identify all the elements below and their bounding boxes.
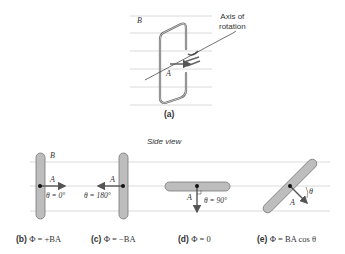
panel-d-caption: (d) Φ = 0 (178, 234, 211, 244)
side-view-label: Side view (147, 137, 181, 146)
panel-b-caption: (b) Φ = +BA (16, 234, 61, 244)
axis-of-rotation-line (145, 33, 233, 80)
panel-a-field-label: B (137, 16, 142, 25)
panel-a-loop (160, 24, 186, 104)
field-label-b: B (50, 151, 55, 160)
panel-b-area-label: A (50, 175, 55, 184)
panel-d-equation: Φ = 0 (191, 234, 211, 244)
panel-d-letter: (d) (178, 234, 189, 244)
panel-d-area-label: A (187, 193, 192, 202)
panel-e-equation: Φ = BA cos θ (270, 234, 316, 244)
panel-c-letter: (c) (91, 234, 101, 244)
panel-d-angle-label: θ = 90° (204, 196, 227, 205)
panel-a-caption: (a) (164, 109, 174, 119)
panel-e-letter: (e) (257, 234, 267, 244)
panel-e-caption: (e) Φ = BA cos θ (257, 234, 316, 244)
axis-of-rotation-label: Axis of rotation (219, 12, 246, 32)
diagram-graphics (0, 0, 345, 254)
panel-b-angle-label: θ = 0° (46, 191, 65, 200)
panel-b-letter: (b) (16, 234, 27, 244)
panel-c-angle-label: θ = 180° (84, 191, 111, 200)
panel-a-area-label: A (166, 69, 171, 78)
panel-c-caption: (c) Φ = −BA (91, 234, 136, 244)
panel-e-angle-label: θ (309, 187, 313, 196)
panel-c-area-label: A (110, 175, 115, 184)
panel-c-equation: Φ = −BA (104, 234, 136, 244)
axis-label-line1: Axis of (219, 12, 246, 22)
panel-e-area-label: A (290, 198, 295, 207)
axis-label-line2: rotation (219, 22, 246, 32)
panel-b-equation: Φ = +BA (29, 234, 61, 244)
